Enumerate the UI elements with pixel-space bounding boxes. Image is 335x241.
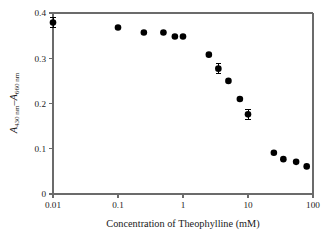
data-point <box>50 19 57 26</box>
x-axis-title: Concentration of Theophylline (mM) <box>106 218 259 230</box>
data-point <box>206 51 213 58</box>
data-point <box>245 111 252 118</box>
data-point <box>172 33 179 40</box>
data-point <box>271 150 278 157</box>
y-axis-title: A430 nm–A660 nm <box>8 72 21 134</box>
x-axis-ticks: 0.010.1110100 <box>45 194 320 210</box>
svg-text:A430 nm–A660 nm: A430 nm–A660 nm <box>8 72 21 134</box>
data-points <box>50 18 310 170</box>
data-point <box>237 96 244 103</box>
y-axis-ticks: 00.10.20.30.4 <box>35 8 53 199</box>
y-tick-label: 0.2 <box>35 99 47 109</box>
data-point <box>225 78 232 85</box>
x-tick-label: 1 <box>181 200 186 210</box>
x-tick-label: 0.1 <box>112 200 124 210</box>
y-tick-label: 0.3 <box>35 54 47 64</box>
y-axis-title-sub2: 660 nm <box>13 72 21 94</box>
x-tick-label: 0.01 <box>45 200 61 210</box>
x-tick-label: 10 <box>243 200 253 210</box>
data-point <box>215 65 222 72</box>
data-point <box>115 24 122 31</box>
axis-frame <box>53 13 313 194</box>
scatter-plot: 00.10.20.30.4 0.010.1110100 Concentratio… <box>0 0 335 241</box>
data-point <box>160 29 167 36</box>
y-tick-label: 0.4 <box>35 8 47 18</box>
data-point <box>141 29 148 36</box>
chart-figure: 00.10.20.30.4 0.010.1110100 Concentratio… <box>0 0 335 241</box>
data-point <box>303 163 310 170</box>
y-tick-label: 0.1 <box>35 144 47 154</box>
y-tick-label: 0 <box>41 189 46 199</box>
data-point <box>180 33 187 40</box>
x-tick-label: 100 <box>306 200 320 210</box>
y-axis-title-sub1: 430 nm <box>13 105 21 127</box>
data-point <box>280 156 287 163</box>
data-point <box>293 159 300 166</box>
